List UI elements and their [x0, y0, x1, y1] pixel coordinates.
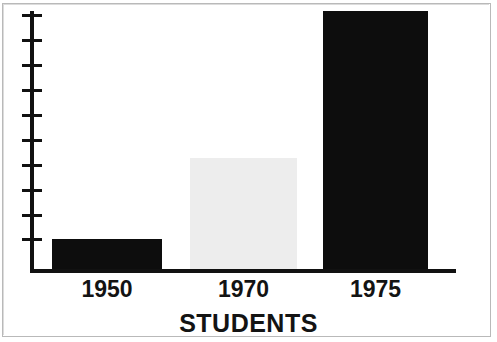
y-axis-tick-8 — [22, 64, 42, 67]
y-axis-tick-6 — [22, 114, 42, 117]
bar-1950[interactable] — [52, 239, 162, 273]
chart-figure: 1950 1970 1975 STUDENTS — [0, 0, 497, 342]
x-tick-label-1975: 1975 — [323, 276, 428, 302]
x-tick-label-1970: 1970 — [190, 276, 297, 302]
y-axis-tick-4 — [22, 164, 42, 167]
bar-1970[interactable] — [190, 158, 297, 273]
x-tick-label-1950: 1950 — [52, 276, 162, 302]
y-axis-tick-9 — [22, 39, 42, 42]
y-axis-tick-3 — [22, 189, 42, 192]
y-axis-line — [30, 11, 34, 273]
x-axis-title: STUDENTS — [0, 309, 497, 337]
plot-area: 1950 1970 1975 — [0, 0, 497, 342]
y-axis-tick-5 — [22, 139, 42, 142]
y-axis-tick-7 — [22, 89, 42, 92]
y-axis-tick-10 — [22, 14, 42, 17]
bar-1975[interactable] — [323, 11, 428, 273]
y-axis-tick-1 — [22, 238, 42, 241]
x-axis-line — [30, 269, 456, 273]
y-axis-tick-2 — [22, 214, 42, 217]
